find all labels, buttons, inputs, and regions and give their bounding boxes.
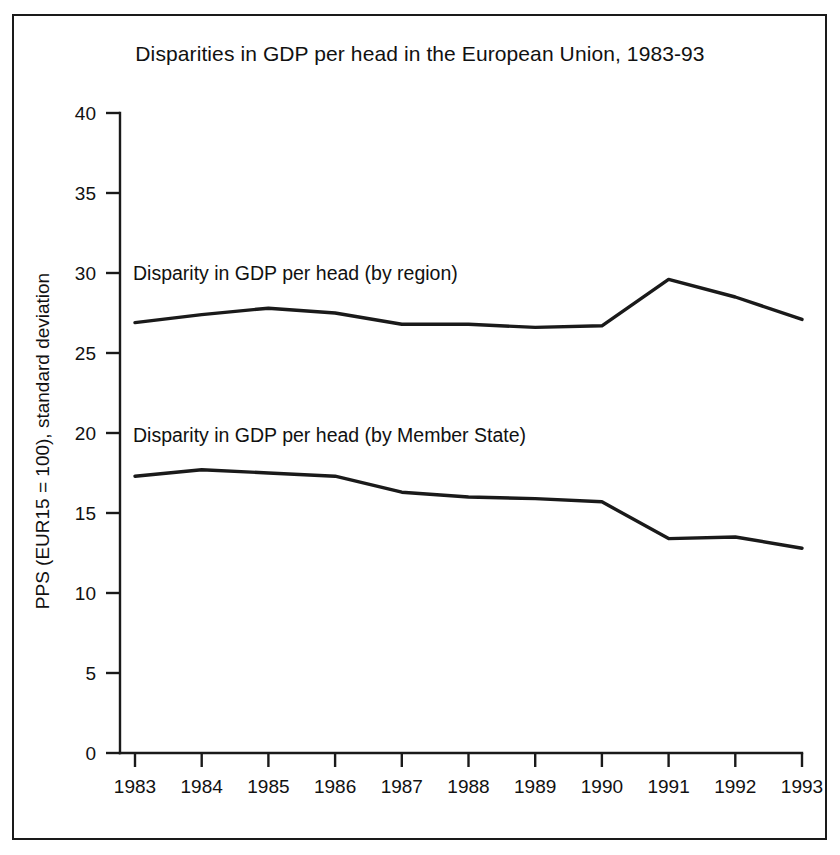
y-tick-label: 15 [75, 503, 96, 524]
x-tick-label: 1992 [714, 776, 756, 797]
x-tick-label: 1987 [381, 776, 423, 797]
x-tick-label: 1986 [314, 776, 356, 797]
y-tick-label: 5 [85, 663, 96, 684]
x-axis-ticks: 1983198419851986198719881989199019911992… [114, 753, 823, 797]
x-tick-label: 1993 [781, 776, 823, 797]
series-lines [135, 279, 802, 548]
series-line-by-region [135, 279, 802, 327]
y-tick-label: 25 [75, 343, 96, 364]
y-axis-ticks: 0510152025303540 [75, 103, 120, 764]
x-tick-label: 1988 [447, 776, 489, 797]
series-label-by-member-state: Disparity in GDP per head (by Member Sta… [133, 424, 526, 447]
chart-page: Disparities in GDP per head in the Europ… [0, 0, 840, 855]
x-tick-label: 1984 [181, 776, 224, 797]
y-tick-label: 20 [75, 423, 96, 444]
y-tick-label: 40 [75, 103, 96, 124]
x-tick-label: 1985 [247, 776, 289, 797]
y-tick-label: 30 [75, 263, 96, 284]
y-tick-label: 10 [75, 583, 96, 604]
x-tick-label: 1990 [581, 776, 623, 797]
series-label-by-region: Disparity in GDP per head (by region) [133, 262, 458, 285]
y-tick-label: 35 [75, 183, 96, 204]
x-tick-label: 1983 [114, 776, 156, 797]
series-line-by-member-state [135, 470, 802, 548]
y-tick-label: 0 [85, 743, 96, 764]
x-tick-label: 1989 [514, 776, 556, 797]
x-tick-label: 1991 [647, 776, 689, 797]
